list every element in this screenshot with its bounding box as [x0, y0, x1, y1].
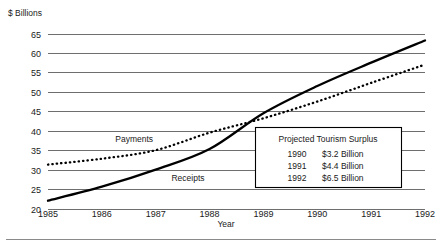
callout-row-year: 1990: [288, 149, 307, 159]
series-label-payments: Payments: [115, 134, 153, 144]
x-tick-labels-group: 19851986198719881989199019911992: [38, 209, 435, 219]
y-tick-label: 40: [31, 127, 41, 137]
y-tick-label: 35: [31, 146, 41, 156]
y-tick-label: 45: [31, 107, 41, 117]
x-tick-label: 1989: [253, 209, 273, 219]
y-tick-labels-group: 20253035404550556065: [31, 30, 41, 215]
y-tick-label: 55: [31, 68, 41, 78]
y-tick-label: 60: [31, 49, 41, 59]
x-tick-label: 1986: [92, 209, 112, 219]
callout-row-amount: $4.4 Billion: [322, 161, 364, 171]
y-axis-title-group: $ Billions: [8, 8, 42, 18]
x-tick-label: 1988: [200, 209, 220, 219]
y-tick-label: 25: [31, 185, 41, 195]
y-axis-title: $ Billions: [8, 8, 42, 18]
callout-row-amount: $3.2 Billion: [322, 149, 364, 159]
callout-row-amount: $6.5 Billion: [322, 173, 364, 183]
x-axis-title-group: Year: [217, 219, 234, 229]
callout-row-year: 1991: [288, 161, 307, 171]
callout-title: Projected Tourism Surplus: [278, 134, 377, 144]
y-tick-label: 50: [31, 88, 41, 98]
x-tick-label: 1985: [38, 209, 58, 219]
x-axis-title: Year: [217, 219, 234, 229]
callout-rows-group: 1990$3.2 Billion1991$4.4 Billion1992$6.5…: [288, 149, 364, 183]
y-tick-label: 30: [31, 166, 41, 176]
callout-box-group: Projected Tourism Surplus 1990$3.2 Billi…: [256, 128, 402, 188]
callout-row-year: 1992: [288, 173, 307, 183]
tourism-receipts-payments-chart: $ Billions 20253035404550556065 19851986…: [0, 0, 442, 251]
x-tick-label: 1992: [415, 209, 435, 219]
y-tick-label: 65: [31, 30, 41, 40]
x-tick-label: 1987: [146, 209, 166, 219]
chart-canvas: $ Billions 20253035404550556065 19851986…: [0, 0, 442, 251]
x-tick-label: 1991: [361, 209, 381, 219]
x-tick-label: 1990: [307, 209, 327, 219]
series-label-receipts: Receipts: [171, 173, 204, 183]
